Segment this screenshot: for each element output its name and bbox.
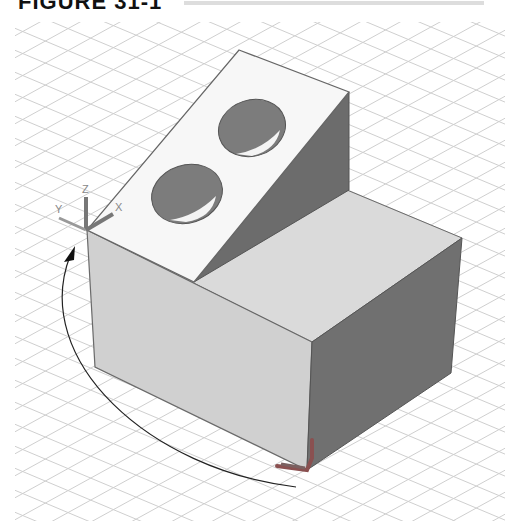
arrow-head-icon: [64, 246, 75, 262]
ucs-x-label: X: [115, 201, 123, 213]
cad-viewport[interactable]: Z Y X: [0, 0, 510, 521]
ucs-y-label: Y: [55, 203, 63, 215]
ucs-z-label: Z: [82, 183, 89, 195]
